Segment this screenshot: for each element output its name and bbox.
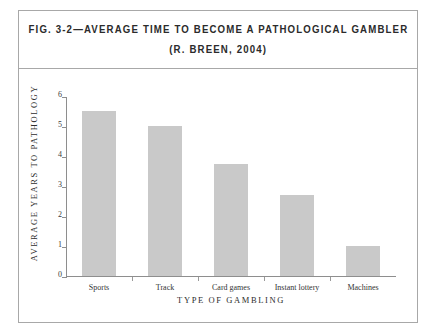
y-tick: 0 (66, 277, 67, 278)
bar[interactable] (346, 246, 380, 276)
figure-subtitle: (R. BREEN, 2004) (169, 42, 267, 57)
plot-area: AVERAGE YEARS TO PATHOLOGY 0123456 Sport… (19, 69, 417, 322)
x-tick-mark (132, 277, 133, 281)
figure-title: FIG. 3-2—AVERAGE TIME TO BECOME A PATHOL… (28, 22, 408, 37)
figure-title-block: FIG. 3-2—AVERAGE TIME TO BECOME A PATHOL… (19, 11, 417, 69)
y-tick-label: 3 (58, 181, 62, 189)
bar[interactable] (214, 164, 248, 277)
bar-slot: Track (132, 97, 198, 276)
bar[interactable] (148, 126, 182, 276)
x-tick-label: Card games (212, 283, 250, 292)
bar-slot: Sports (66, 97, 132, 276)
y-tick-mark (62, 277, 67, 278)
y-tick-label: 2 (58, 211, 62, 219)
y-tick-label: 1 (58, 241, 62, 249)
figure-frame: FIG. 3-2—AVERAGE TIME TO BECOME A PATHOL… (18, 10, 418, 323)
x-axis-title: TYPE OF GAMBLING (66, 295, 396, 305)
x-tick-label: Sports (89, 283, 109, 292)
bar-slot: Machines (330, 97, 396, 276)
chart-axes: 0123456 SportsTrackCard gamesInstant lot… (66, 97, 396, 277)
x-tick-mark (198, 277, 199, 281)
bar-slot: Card games (198, 97, 264, 276)
x-tick-label: Track (156, 283, 174, 292)
y-tick-label: 4 (58, 151, 62, 159)
y-axis-title-text: AVERAGE YEARS TO PATHOLOGY (29, 85, 39, 261)
x-axis-line (66, 276, 396, 277)
bar[interactable] (82, 111, 116, 276)
x-tick-label: Instant lottery (275, 283, 320, 292)
x-tick-mark (330, 277, 331, 281)
x-tick-mark (264, 277, 265, 281)
y-tick-label: 5 (58, 121, 62, 129)
x-tick-label: Machines (347, 283, 378, 292)
y-axis-title: AVERAGE YEARS TO PATHOLOGY (25, 69, 43, 277)
bar-group: SportsTrackCard gamesInstant lotteryMach… (66, 97, 396, 276)
bar-slot: Instant lottery (264, 97, 330, 276)
y-tick-label: 6 (58, 91, 62, 99)
bar[interactable] (280, 195, 314, 276)
y-tick-label: 0 (58, 271, 62, 279)
